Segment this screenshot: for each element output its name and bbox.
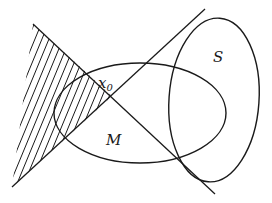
set-m-ellipse — [54, 63, 226, 163]
hatched-cone-region — [0, 10, 152, 203]
separating-line — [33, 24, 215, 194]
label-s: S — [213, 48, 223, 66]
label-x0-subscript: 0 — [106, 82, 113, 93]
label-m: M — [105, 131, 122, 149]
convex-sets-diagram: x0 M S — [0, 0, 272, 203]
label-x0: x0 — [98, 74, 113, 93]
